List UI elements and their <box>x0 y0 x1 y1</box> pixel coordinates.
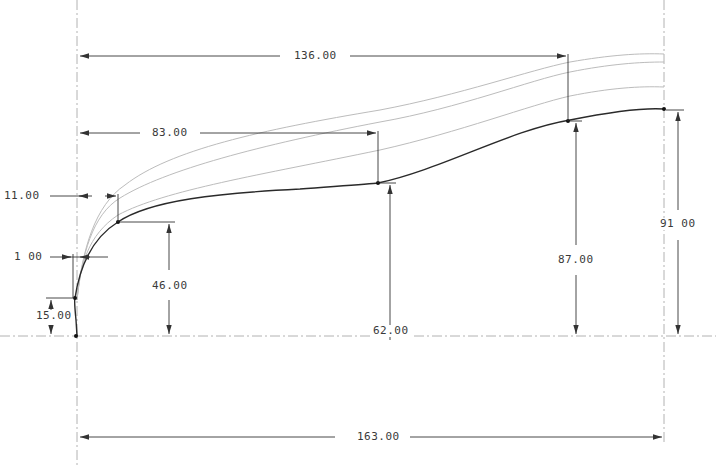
dimension-label-87[interactable]: 87.00 <box>556 254 596 266</box>
dimension-label-163[interactable]: 163.00 <box>355 431 402 443</box>
dimension-label-136[interactable]: 136.00 <box>292 50 339 62</box>
cad-sketch-canvas <box>0 0 716 468</box>
dimension-label-15[interactable]: 15.00 <box>34 310 74 322</box>
profile-points <box>73 107 666 338</box>
centerlines <box>0 0 716 468</box>
dimension-label-46[interactable]: 46.00 <box>150 280 190 292</box>
dimension-label-1[interactable]: 1 00 <box>12 251 45 263</box>
dimension-lines <box>46 54 684 437</box>
dimension-label-91[interactable]: 91 00 <box>658 218 698 230</box>
point-91 <box>662 107 666 111</box>
point-start <box>74 334 78 338</box>
dimension-label-83[interactable]: 83.00 <box>150 127 190 139</box>
dimension-label-62[interactable]: 62.00 <box>371 325 411 337</box>
dimension-label-11[interactable]: 11.00 <box>2 190 42 202</box>
